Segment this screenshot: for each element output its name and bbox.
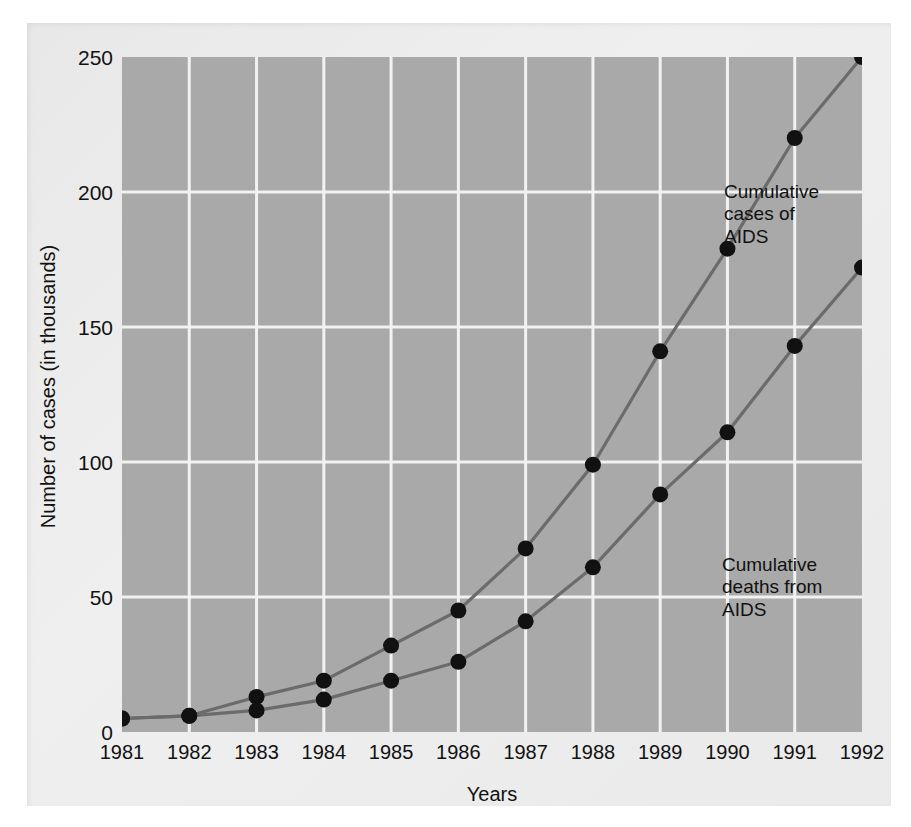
data-point-1-1986 bbox=[450, 654, 466, 670]
data-point-0-1987 bbox=[518, 540, 534, 556]
x-tick-1984: 1984 bbox=[302, 742, 347, 762]
x-axis-title: Years bbox=[122, 783, 862, 806]
y-axis-title: Number of cases (in thousands) bbox=[37, 127, 60, 647]
x-tick-1992: 1992 bbox=[840, 742, 885, 762]
data-point-1-1991 bbox=[787, 338, 803, 354]
x-tick-1987: 1987 bbox=[503, 742, 548, 762]
plot-area: Cumulative cases of AIDS Cumulative deat… bbox=[122, 57, 862, 732]
data-point-0-1988 bbox=[585, 457, 601, 473]
x-tick-1983: 1983 bbox=[234, 742, 279, 762]
y-tick-150: 150 bbox=[53, 317, 113, 338]
data-point-0-1984 bbox=[316, 673, 332, 689]
data-point-1-1983 bbox=[249, 702, 265, 718]
x-tick-1986: 1986 bbox=[436, 742, 481, 762]
data-point-1-1988 bbox=[585, 559, 601, 575]
data-point-1-1984 bbox=[316, 692, 332, 708]
data-point-0-1986 bbox=[450, 603, 466, 619]
data-point-0-1991 bbox=[787, 130, 803, 146]
figure-root: 250 200 150 100 50 0 Number of cases (in… bbox=[0, 0, 911, 827]
x-axis-tick-labels: 1981198219831984198519861987198819891990… bbox=[122, 742, 862, 772]
x-tick-1985: 1985 bbox=[369, 742, 414, 762]
data-point-1-1987 bbox=[518, 613, 534, 629]
data-point-0-1989 bbox=[652, 343, 668, 359]
x-tick-1990: 1990 bbox=[705, 742, 750, 762]
annotation-cumulative-deaths: Cumulative deaths from AIDS bbox=[722, 554, 822, 621]
data-point-1-1981 bbox=[122, 711, 130, 727]
x-tick-1982: 1982 bbox=[167, 742, 212, 762]
x-tick-1988: 1988 bbox=[571, 742, 616, 762]
x-tick-1981: 1981 bbox=[100, 742, 145, 762]
data-point-1-1990 bbox=[719, 424, 735, 440]
y-tick-100: 100 bbox=[53, 452, 113, 473]
y-tick-200: 200 bbox=[53, 182, 113, 203]
series-markers bbox=[122, 57, 862, 727]
chart-canvas bbox=[122, 57, 862, 732]
vertical-gridlines bbox=[189, 57, 794, 732]
y-tick-50: 50 bbox=[53, 587, 113, 608]
x-tick-1991: 1991 bbox=[772, 742, 817, 762]
series-line-1 bbox=[122, 268, 862, 719]
data-point-1-1982 bbox=[181, 708, 197, 724]
horizontal-gridlines bbox=[122, 192, 862, 597]
data-point-1-1989 bbox=[652, 486, 668, 502]
y-tick-0: 0 bbox=[53, 722, 113, 743]
data-point-1-1985 bbox=[383, 673, 399, 689]
x-tick-1989: 1989 bbox=[638, 742, 683, 762]
annotation-cumulative-cases: Cumulative cases of AIDS bbox=[724, 181, 819, 248]
y-tick-250: 250 bbox=[53, 47, 113, 68]
data-point-0-1985 bbox=[383, 638, 399, 654]
